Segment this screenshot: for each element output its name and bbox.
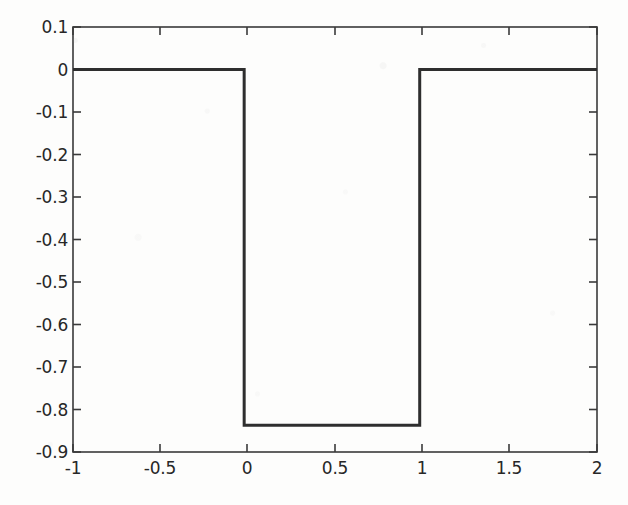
data-series-square-pulse (73, 70, 597, 426)
y-tick-label: -0.7 (6, 357, 68, 377)
y-axis-ticks-right (589, 27, 597, 452)
y-tick-label: -0.2 (6, 145, 68, 165)
y-tick-label: 0.1 (6, 17, 68, 37)
y-tick-label: -0.5 (6, 272, 68, 292)
x-tick-label: 2 (592, 458, 603, 478)
y-tick-label: -0.3 (6, 187, 68, 207)
figure-canvas: 0.1 0 -0.1 -0.2 -0.3 -0.4 -0.5 -0.6 -0.7… (0, 0, 628, 505)
y-tick-label: -0.9 (6, 442, 68, 462)
y-tick-label: -0.4 (6, 230, 68, 250)
x-tick-label: 0.5 (322, 458, 348, 478)
axes-box (73, 27, 597, 452)
y-tick-label: 0 (6, 60, 68, 80)
y-tick-label: -0.8 (6, 400, 68, 420)
x-axis-ticks-top (73, 27, 597, 35)
x-axis-ticks-bottom (73, 444, 597, 452)
x-tick-label: 1.5 (496, 458, 522, 478)
y-tick-label: -0.6 (6, 315, 68, 335)
x-tick-label: -1 (65, 458, 82, 478)
y-axis-ticks-left (73, 27, 81, 452)
x-tick-label: 0 (242, 458, 253, 478)
x-tick-label: -0.5 (144, 458, 176, 478)
y-tick-label: -0.1 (6, 102, 68, 122)
square-pulse-plot (0, 0, 628, 505)
x-tick-label: 1 (417, 458, 428, 478)
